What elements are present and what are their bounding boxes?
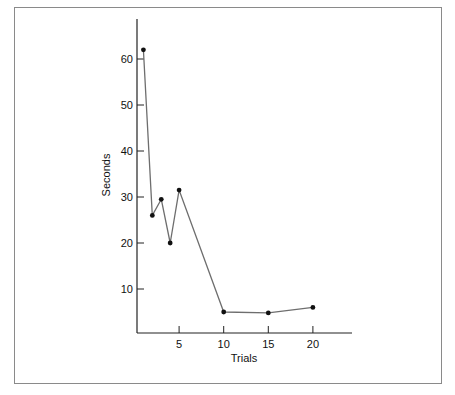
y-tick-label: 60 bbox=[121, 53, 133, 65]
data-point-marker bbox=[266, 311, 271, 316]
data-point-marker bbox=[311, 305, 316, 310]
data-point-marker bbox=[177, 188, 182, 193]
data-point-marker bbox=[141, 47, 146, 52]
y-tick-label: 10 bbox=[121, 283, 133, 295]
x-tick-label: 5 bbox=[176, 338, 182, 350]
data-point-marker bbox=[159, 197, 164, 202]
x-tick-label: 10 bbox=[218, 338, 230, 350]
line-chart: 1020304050605101520 Trials Seconds bbox=[0, 0, 455, 395]
y-tick-label: 40 bbox=[121, 145, 133, 157]
axes bbox=[137, 19, 352, 333]
x-tick-label: 15 bbox=[262, 338, 274, 350]
data-point-marker bbox=[168, 241, 173, 246]
y-tick-label: 50 bbox=[121, 99, 133, 111]
tick-marks: 1020304050605101520 bbox=[121, 53, 319, 350]
series-line bbox=[143, 50, 313, 313]
data-point-marker bbox=[150, 213, 155, 218]
x-axis-title: Trials bbox=[231, 352, 258, 364]
y-tick-label: 30 bbox=[121, 191, 133, 203]
y-axis-title: Seconds bbox=[100, 153, 112, 196]
data-point-marker bbox=[221, 310, 226, 315]
data-series bbox=[141, 47, 315, 315]
x-tick-label: 20 bbox=[307, 338, 319, 350]
y-tick-label: 20 bbox=[121, 237, 133, 249]
